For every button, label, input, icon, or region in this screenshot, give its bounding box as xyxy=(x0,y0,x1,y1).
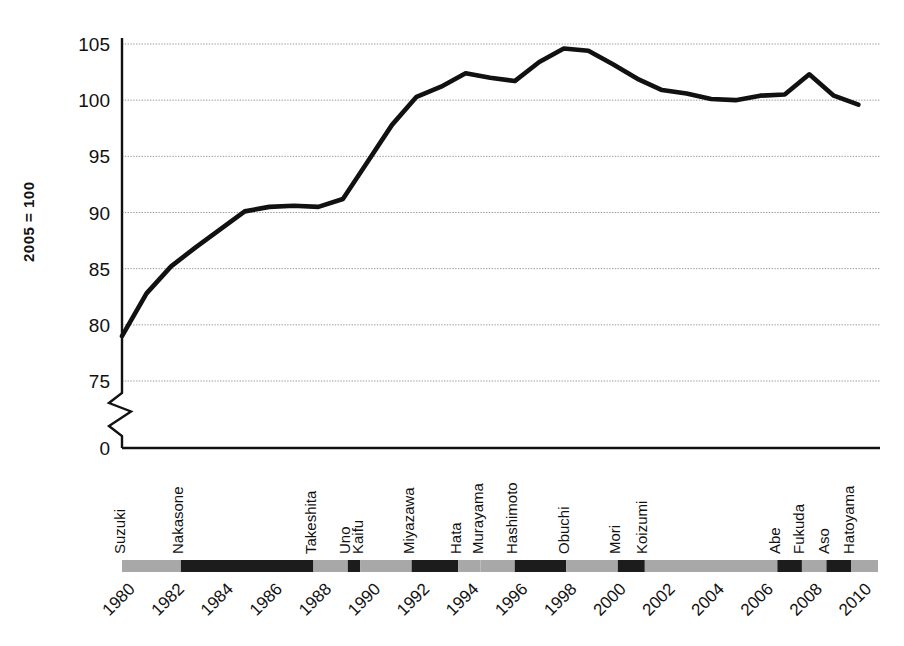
pm-term-segment xyxy=(412,560,459,572)
pm-name-label: Suzuki xyxy=(111,509,128,554)
pm-term-segment xyxy=(826,560,851,572)
pm-term-segment xyxy=(777,560,802,572)
pm-name-label: Hatoyama xyxy=(840,485,857,554)
pm-name-label: Hata xyxy=(447,522,464,554)
pm-name-label: Mori xyxy=(606,525,623,554)
pm-term-segment xyxy=(645,560,778,572)
pm-name-label: Koizumi xyxy=(633,501,650,554)
y-axis-tick-label: 90 xyxy=(89,203,110,224)
pm-name-label: Abe xyxy=(766,527,783,554)
chart-figure: 2005 = 100 10510095908580750 SuzukiNakas… xyxy=(0,0,904,646)
pm-name-label: Murayama xyxy=(469,482,486,554)
y-axis-label: 2005 = 100 xyxy=(20,182,37,263)
pm-term-segment xyxy=(566,560,618,572)
y-axis-tick-label: 80 xyxy=(89,315,110,336)
pm-term-segment xyxy=(618,560,645,572)
y-axis-tick-label: 105 xyxy=(78,34,110,55)
pm-name-label: Hashimoto xyxy=(503,482,520,554)
y-axis-tick-label-zero: 0 xyxy=(99,438,110,459)
y-axis-tick-label: 85 xyxy=(89,259,110,280)
pm-name-label: Nakasone xyxy=(169,486,186,554)
pm-term-segment xyxy=(480,560,514,572)
prime-minister-bar xyxy=(122,560,878,572)
pm-name-label: Fukuda xyxy=(790,503,807,554)
y-axis-tick-label: 100 xyxy=(78,90,110,111)
pm-term-segment xyxy=(122,560,181,572)
y-axis-tick-label: 75 xyxy=(89,371,110,392)
pm-term-segment xyxy=(851,560,878,572)
pm-term-segment xyxy=(313,560,347,572)
pm-term-segment xyxy=(360,560,412,572)
pm-name-label: Kaifu xyxy=(349,520,366,554)
line-chart-canvas: 2005 = 100 10510095908580750 SuzukiNakas… xyxy=(0,0,904,646)
pm-term-segment xyxy=(802,560,827,572)
pm-name-label: Aso xyxy=(815,528,832,554)
pm-term-segment xyxy=(181,560,314,572)
pm-name-label: Miyazawa xyxy=(400,487,417,554)
pm-name-label: Obuchi xyxy=(555,506,572,554)
pm-name-label: Takeshita xyxy=(302,490,319,554)
pm-term-segment xyxy=(515,560,567,572)
pm-term-segment xyxy=(458,560,480,572)
pm-term-segment xyxy=(348,560,360,572)
y-axis-tick-label: 95 xyxy=(89,146,110,167)
